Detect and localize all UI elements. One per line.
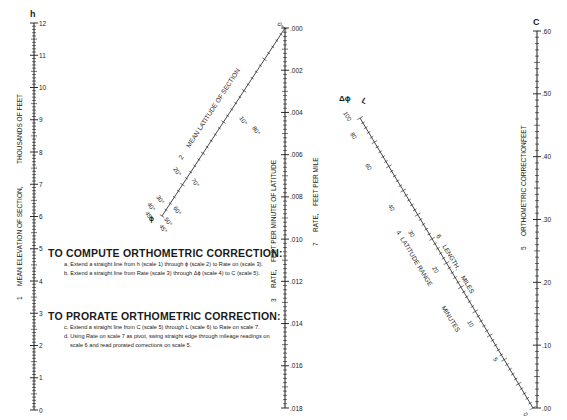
dphi-label-80: 80	[349, 131, 358, 140]
scale-h: 1211109876543210 h 1 MEAN ELEVATION OF S…	[16, 9, 47, 414]
prorate-step-c: c. Extend a straight line from C (scale …	[64, 323, 278, 331]
scale-L-title: LENGTH,	[441, 243, 462, 271]
scale-h-number: 1	[16, 296, 23, 300]
dphi-label-10: 10	[466, 319, 475, 328]
scale-rate7-title: RATE,	[312, 213, 319, 232]
scale-dphi-number: 4	[395, 229, 403, 236]
scale-C-tick-label: .00	[542, 405, 551, 412]
scale-rate-tick-label: .010	[290, 236, 303, 243]
scale-C-tick-label: .30	[542, 216, 551, 223]
dphi-label-40: 40	[387, 203, 396, 212]
scale-h-tick-label: 9	[39, 116, 43, 123]
scale-latitude: 0° 10° 80° 20° 70° 30° 60° 40° 45° 50° 4…	[144, 21, 287, 234]
scale-rate-tick-label: .018	[290, 405, 303, 412]
nomogram: 1211109876543210 h 1 MEAN ELEVATION OF S…	[0, 0, 567, 420]
scale-h-tick-label: 3	[39, 310, 43, 317]
phi-label-20: 20°	[172, 166, 182, 177]
L-symbol: L	[360, 96, 369, 106]
scale-h-tick-label: 4	[39, 278, 43, 285]
scale-rate-tick-label: .004	[290, 109, 303, 116]
dphi-label-5: 5	[492, 356, 499, 363]
scale-h-tick-label: 6	[39, 213, 43, 220]
scale-C-tick-label: .50	[542, 90, 551, 97]
scale-h-tick-label: 8	[39, 149, 43, 156]
scale-C-title: ORTHOMETRIC CORRECTION,	[520, 140, 527, 236]
scale-rate-tick-label: .006	[290, 151, 303, 158]
phi-label-80: 80°	[251, 125, 261, 136]
scale-rate-tick-label: .014	[290, 320, 303, 327]
scale-rate-tick-label: .012	[290, 278, 303, 285]
dphi-label-0: 0	[522, 411, 529, 418]
scale-C-unit: FEET	[520, 125, 527, 142]
phi-label-60: 60°	[172, 205, 182, 216]
compute-heading: TO COMPUTE ORTHOMETRIC CORRECTION:	[48, 247, 278, 259]
scale-h-tick-label: 1	[39, 374, 43, 381]
scale-h-tick-label: 7	[39, 181, 43, 188]
scale-rate7-unit: FEET PER MILE	[312, 157, 319, 206]
phi-label-70: 70°	[190, 177, 200, 188]
scale-rate-number: 3	[270, 298, 277, 302]
prorate-heading: TO PRORATE ORTHOMETRIC CORRECTION:	[48, 310, 278, 322]
scale-rate7-number: 7	[312, 242, 319, 246]
scale-L-unit: MILES	[460, 274, 476, 295]
phi-symbol: ϕ	[149, 215, 154, 223]
scale-h-tick-label: 10	[39, 84, 47, 91]
scale-h-symbol: h	[30, 9, 36, 19]
scale-h-tick-label: 0	[39, 407, 43, 414]
scale-dphi-title: LATITUDE RANGE	[399, 236, 434, 288]
scale-rate-tick-label: .002	[290, 67, 303, 74]
scale-rate-tick-label: .000	[290, 25, 303, 32]
scale-C-tick-label: .40	[542, 153, 551, 160]
compute-instructions: TO COMPUTE ORTHOMETRIC CORRECTION: a. Ex…	[48, 247, 278, 278]
scale-rate-tick-label: .016	[290, 362, 303, 369]
scale-correction: .60.50.40.30.20.10.00 C 5 ORTHOMETRIC CO…	[520, 17, 551, 412]
prorate-step-d: d. Using Rate on scale 7 as pivot, swing…	[64, 332, 278, 349]
compute-step-b: b. Extend a straight line from Rate (sca…	[64, 269, 278, 277]
scale-latitude-number: 2	[177, 153, 185, 160]
scale-latitude-range: Δϕ L 100 80 60 40 30 20 10 5 0 4 LATITUD…	[339, 94, 536, 418]
scale-h-tick-label: 5	[39, 245, 43, 252]
scale-C-symbol: C	[533, 17, 540, 27]
scale-C-number: 5	[520, 246, 527, 250]
prorate-instructions: TO PRORATE ORTHOMETRIC CORRECTION: c. Ex…	[48, 310, 278, 349]
scale-L-number: 6	[435, 233, 443, 240]
phi-label-30: 30°	[155, 194, 165, 205]
scale-C-tick-label: .60	[542, 28, 551, 35]
scale-h-tick-label: 2	[39, 342, 43, 349]
phi-label-10: 10°	[238, 115, 248, 126]
scale-rate: .000.002.004.006.008.010.012.014.016.018…	[270, 25, 319, 412]
scale-C-tick-label: .10	[542, 342, 551, 349]
scale-h-tick-label: 11	[39, 52, 46, 59]
scale-h-tick-label: 12	[39, 20, 47, 27]
dphi-label-20: 20	[431, 265, 440, 274]
dphi-label-60: 60	[364, 162, 373, 171]
dphi-symbol: Δϕ	[339, 94, 351, 103]
scale-h-unit: THOUSANDS OF FEET	[16, 94, 23, 164]
phi-label-0: 0°	[276, 21, 284, 30]
compute-step-a: a. Extend a straight line from h (scale …	[64, 260, 278, 268]
scale-dphi-unit: MINUTES	[440, 304, 461, 333]
scale-h-title: MEAN ELEVATION OF SECTION,	[16, 186, 23, 286]
scale-rate-tick-label: .008	[290, 193, 303, 200]
dphi-label-100: 100	[342, 110, 353, 122]
dphi-label-30: 30	[407, 229, 416, 238]
scale-C-tick-label: .20	[542, 279, 551, 286]
